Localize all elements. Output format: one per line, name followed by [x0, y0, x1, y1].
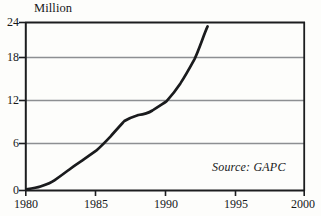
chart-canvas	[0, 0, 321, 216]
y-tick-label-12: 12	[0, 93, 19, 108]
y-tick-label-18: 18	[0, 50, 19, 65]
x-tick-label-1995: 1995	[216, 197, 256, 212]
x-tick-label-1985: 1985	[76, 197, 116, 212]
y-tick-label-6: 6	[0, 136, 19, 151]
y-tick-label-24: 24	[0, 15, 19, 30]
x-tick-label-1990: 1990	[146, 197, 186, 212]
x-tick-label-2000: 2000	[283, 197, 321, 212]
series-line-value	[26, 26, 207, 189]
source-annotation: Source: GAPC	[212, 160, 286, 175]
y-tick-label-0: 0	[0, 183, 19, 198]
y-tick-marks	[19, 23, 25, 191]
y-axis-unit-label: Million	[34, 1, 72, 16]
gridlines	[25, 58, 305, 144]
chart-figure: Million 24 18 12 6 0 1980 1985 1990 1995…	[0, 0, 321, 216]
x-tick-label-1980: 1980	[6, 197, 46, 212]
